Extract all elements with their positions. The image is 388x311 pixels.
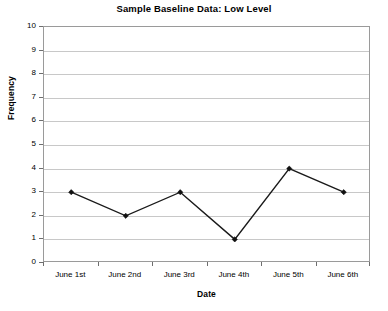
data-point-marker: June 1st: 3 [69, 190, 74, 195]
y-tick-label: 7 [32, 91, 36, 102]
x-tick-label: June 3rd [152, 270, 207, 279]
series-line [71, 169, 344, 240]
y-tick-label: 2 [32, 209, 36, 220]
x-tick-mark [369, 262, 370, 266]
x-tick-label: June 2nd [98, 270, 153, 279]
x-tick-label: June 6th [316, 270, 371, 279]
x-axis-title: Date [43, 289, 370, 299]
y-tick-label: 5 [32, 138, 36, 149]
y-tick-label: 8 [32, 67, 36, 78]
y-tick-label: 10 [27, 20, 36, 31]
x-tick-mark [316, 262, 317, 266]
chart-container: Sample Baseline Data: Low Level Frequenc… [0, 0, 388, 311]
x-tick-label: June 1st [43, 270, 98, 279]
data-series-frequency: June 1st: 3June 2nd: 2June 3rd: 3June 4t… [44, 27, 371, 263]
data-point-marker: June 6th: 3 [341, 190, 346, 195]
y-tick-label: 3 [32, 185, 36, 196]
y-tick-label: 0 [32, 256, 36, 267]
y-axis: 012345678910 [0, 26, 43, 263]
y-tick-label: 6 [32, 114, 36, 125]
plot-area: June 1st: 3June 2nd: 2June 3rd: 3June 4t… [43, 26, 370, 262]
x-tick-mark [98, 262, 99, 266]
y-tick-label: 9 [32, 44, 36, 55]
data-point-marker: June 2nd: 2 [123, 213, 128, 218]
chart-title: Sample Baseline Data: Low Level [0, 3, 388, 14]
x-tick-mark [207, 262, 208, 266]
x-tick-mark [43, 262, 44, 266]
x-tick-label: June 4th [207, 270, 262, 279]
x-tick-label: June 5th [261, 270, 316, 279]
y-tick-label: 4 [32, 162, 36, 173]
x-tick-mark [261, 262, 262, 266]
x-axis: June 1stJune 2ndJune 3rdJune 4thJune 5th… [43, 262, 370, 292]
x-tick-mark [152, 262, 153, 266]
y-tick-label: 1 [32, 232, 36, 243]
